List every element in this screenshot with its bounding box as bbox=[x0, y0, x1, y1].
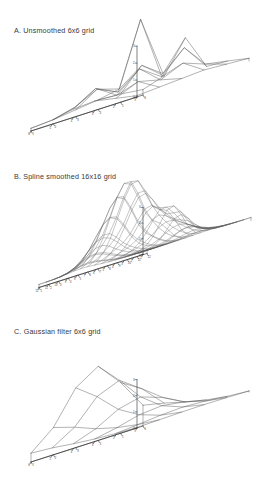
svg-text:1: 1 bbox=[40, 289, 42, 293]
svg-text:4: 4 bbox=[70, 280, 72, 284]
svg-text:10: 10 bbox=[54, 283, 57, 287]
svg-text:3: 3 bbox=[60, 283, 62, 287]
svg-text:3: 3 bbox=[77, 449, 79, 453]
svg-text:6: 6 bbox=[90, 273, 92, 277]
svg-text:5: 5 bbox=[80, 277, 82, 281]
svg-text:2: 2 bbox=[55, 125, 57, 129]
svg-text:4: 4 bbox=[100, 111, 102, 115]
surface-plot-a: 0123123456123456 bbox=[0, 0, 269, 164]
panel-c-title: C. Gaussian filter 6x6 grid bbox=[14, 327, 101, 336]
svg-text:3: 3 bbox=[133, 378, 135, 382]
svg-text:1: 1 bbox=[32, 463, 34, 467]
svg-text:2: 2 bbox=[55, 456, 57, 460]
panel-spline-smoothed: 0123123456789101112123456789101112 B. Sp… bbox=[0, 162, 269, 317]
svg-text:2: 2 bbox=[50, 286, 52, 290]
svg-text:3: 3 bbox=[133, 44, 135, 48]
svg-text:6: 6 bbox=[144, 96, 146, 100]
svg-text:12: 12 bbox=[36, 289, 39, 293]
svg-text:1: 1 bbox=[32, 132, 34, 136]
panel-unsmoothed: 0123123456123456 A. Unsmoothed 6x6 grid bbox=[0, 0, 269, 164]
svg-text:11: 11 bbox=[45, 286, 48, 290]
svg-text:7: 7 bbox=[99, 270, 101, 274]
svg-text:3: 3 bbox=[77, 118, 79, 122]
surface-plot-figure: 0123123456123456 A. Unsmoothed 6x6 grid … bbox=[0, 0, 269, 497]
svg-text:1: 1 bbox=[133, 78, 135, 82]
surface-plot-c: 0123123456123456 bbox=[0, 317, 269, 497]
svg-text:2: 2 bbox=[133, 394, 135, 398]
svg-text:3: 3 bbox=[139, 205, 141, 209]
svg-text:12: 12 bbox=[148, 255, 151, 259]
panel-gaussian-filter: 0123123456123456 C. Gaussian filter 6x6 … bbox=[0, 317, 269, 497]
surface-plot-b: 0123123456789101112123456789101112 bbox=[0, 162, 269, 317]
svg-text:8: 8 bbox=[109, 267, 111, 271]
svg-text:5: 5 bbox=[122, 104, 124, 108]
svg-text:4: 4 bbox=[100, 442, 102, 446]
svg-text:2: 2 bbox=[133, 61, 135, 65]
panel-a-title: A. Unsmoothed 6x6 grid bbox=[14, 26, 94, 35]
svg-text:5: 5 bbox=[122, 435, 124, 439]
panel-b-title: B. Spline smoothed 16x16 grid bbox=[14, 172, 116, 181]
svg-text:6: 6 bbox=[144, 427, 146, 431]
